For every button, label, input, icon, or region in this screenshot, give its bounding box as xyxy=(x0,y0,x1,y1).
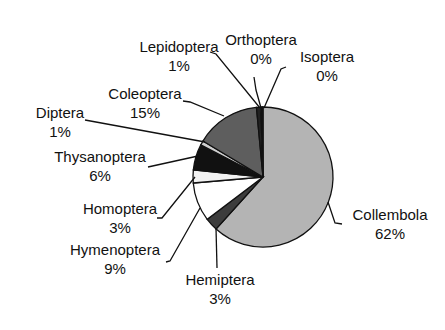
label-pct: 9% xyxy=(55,259,175,278)
pie-slice-isoptera xyxy=(262,107,263,177)
label-name: Diptera xyxy=(20,103,100,122)
label-isoptera: Isoptera 0% xyxy=(282,47,372,85)
label-name: Coleoptera xyxy=(95,84,195,103)
label-name: Collembola xyxy=(335,205,445,224)
label-pct: 1% xyxy=(20,122,100,141)
label-hymenoptera: Hymenoptera 9% xyxy=(55,240,175,278)
pie-slices xyxy=(193,107,333,247)
label-thysanoptera: Thysanoptera 6% xyxy=(40,147,160,185)
label-pct: 62% xyxy=(335,224,445,243)
label-pct: 3% xyxy=(65,218,175,237)
leader-line-orthoptera xyxy=(254,77,261,108)
label-name: Thysanoptera xyxy=(40,147,160,166)
label-pct: 3% xyxy=(170,289,270,308)
label-collembola: Collembola 62% xyxy=(335,205,445,243)
label-pct: 15% xyxy=(95,103,195,122)
label-pct: 6% xyxy=(40,166,160,185)
label-pct: 0% xyxy=(282,66,372,85)
label-homoptera: Homoptera 3% xyxy=(65,199,175,237)
label-diptera: Diptera 1% xyxy=(20,103,100,141)
label-name: Homoptera xyxy=(65,199,175,218)
label-name: Isoptera xyxy=(282,47,372,66)
leader-line-diptera xyxy=(85,120,205,142)
label-name: Hemiptera xyxy=(170,270,270,289)
label-coleoptera: Coleoptera 15% xyxy=(95,84,195,122)
label-hemiptera: Hemiptera 3% xyxy=(170,270,270,308)
label-name: Hymenoptera xyxy=(55,240,175,259)
leader-line-hemiptera xyxy=(216,228,217,268)
